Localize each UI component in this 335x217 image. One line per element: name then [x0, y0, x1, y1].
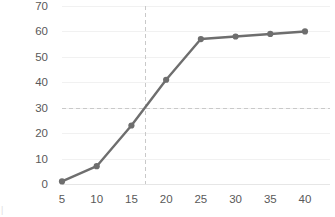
x-tick-label: 40 — [299, 193, 312, 205]
y-tick-label: 0 — [42, 178, 48, 190]
y-tick-label: 50 — [35, 51, 48, 63]
data-point — [59, 178, 65, 184]
y-tick-label: 60 — [35, 25, 48, 37]
data-point — [94, 163, 100, 169]
data-point — [163, 77, 169, 83]
x-tick-label: 10 — [90, 193, 103, 205]
x-tick-label: 35 — [264, 193, 277, 205]
line-chart: 010203040506070 510152025303540 | — [0, 0, 335, 217]
x-tick-label: 25 — [194, 193, 207, 205]
x-tick-label: 20 — [160, 193, 173, 205]
data-point — [128, 122, 134, 128]
y-tick-label: 10 — [35, 153, 48, 165]
y-tick-label: 30 — [35, 102, 48, 114]
data-point — [267, 31, 273, 37]
x-tick-label: 5 — [59, 193, 65, 205]
x-tick-label: 30 — [229, 193, 242, 205]
y-tick-label: 70 — [35, 0, 48, 12]
y-tick-label: 20 — [35, 127, 48, 139]
data-point — [232, 33, 238, 39]
chart-canvas: 010203040506070 510152025303540 — [0, 0, 335, 217]
y-tick-label: 40 — [35, 76, 48, 88]
data-point — [302, 28, 308, 34]
corner-mark: | — [1, 206, 6, 215]
x-tick-label: 15 — [125, 193, 138, 205]
data-point — [198, 36, 204, 42]
